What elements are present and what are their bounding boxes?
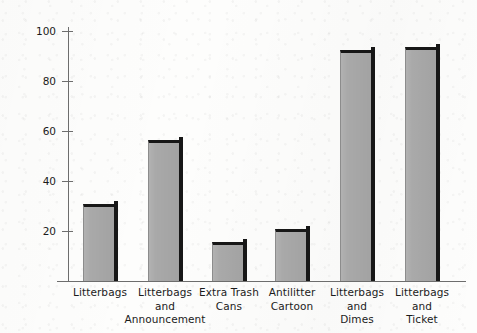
bar-chart-plot-area: Percentage of Litter Returned by Audienc… xyxy=(0,0,477,333)
y-axis-tick-label-100: 100 xyxy=(28,26,56,37)
bar-litterbags-and-dimes xyxy=(340,50,375,281)
y-axis-tick-60 xyxy=(62,131,73,132)
y-axis-tick-100 xyxy=(62,31,73,32)
x-axis-label-5: LitterbagsandTicket xyxy=(374,286,470,327)
y-axis-tick-label-20: 20 xyxy=(28,226,56,237)
y-axis-tick-label-80: 80 xyxy=(28,76,56,87)
y-axis-tick-label-20-wrap: 20 xyxy=(28,226,56,237)
y-axis-tick-label-60: 60 xyxy=(28,126,56,137)
bar-litterbags-and-announcement xyxy=(148,140,183,281)
y-axis-line xyxy=(68,27,69,282)
bar-litterbags-and-ticket xyxy=(405,47,440,281)
bar-antilitter-cartoon xyxy=(275,229,310,282)
y-axis-tick-label-40: 40 xyxy=(28,176,56,187)
x-axis-line xyxy=(57,281,466,282)
y-axis-tick-80 xyxy=(62,81,73,82)
y-axis-tick-label-40-wrap: 40 xyxy=(28,176,56,187)
y-axis-tick-label-80-wrap: 80 xyxy=(28,76,56,87)
y-axis-tick-label-60-wrap: 60 xyxy=(28,126,56,137)
bar-extra-trash-cans xyxy=(212,242,247,281)
y-axis-tick-20 xyxy=(62,231,73,232)
chart-page: Percentage of Litter Returned by Audienc… xyxy=(0,0,477,333)
y-axis-tick-40 xyxy=(62,181,73,182)
y-axis-tick-label-100-wrap: 100 xyxy=(28,26,56,37)
bar-litterbags xyxy=(83,204,118,282)
